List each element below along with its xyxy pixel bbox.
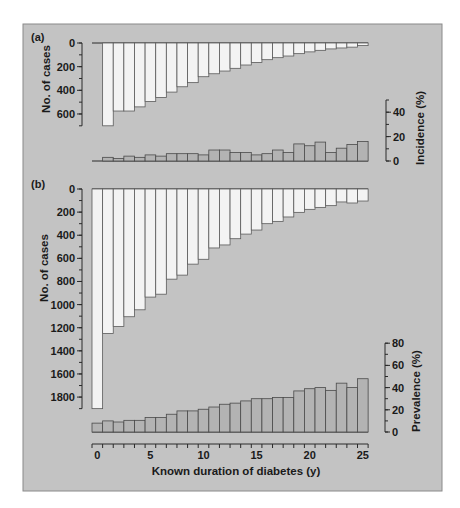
rate-bar — [219, 150, 230, 161]
y-tick-label: 1600 — [51, 368, 75, 380]
rate-bar — [283, 152, 294, 161]
y-tick-label: 200 — [57, 61, 75, 73]
cases-bar — [177, 43, 188, 87]
y-tick-label: 0 — [393, 155, 399, 167]
rate-bar — [283, 398, 294, 432]
cases-bar — [156, 189, 167, 294]
rate-bar — [251, 155, 262, 161]
x-tick-label: 0 — [94, 449, 100, 461]
cases-bar — [262, 189, 273, 224]
cases-bar — [145, 189, 156, 297]
rate-bar — [134, 420, 145, 432]
y-tick-label: 800 — [57, 275, 75, 287]
cases-bar — [166, 43, 177, 92]
panel-a-label: (a) — [31, 31, 45, 43]
cases-bar — [251, 189, 262, 230]
cases-bar — [294, 189, 305, 212]
cases-bar — [283, 189, 294, 217]
rate-bar — [156, 156, 167, 161]
cases-bar — [113, 189, 124, 327]
rate-bar — [336, 383, 347, 432]
rate-bar — [294, 144, 305, 161]
rate-bar — [262, 154, 273, 161]
rate-bar — [113, 422, 124, 432]
cases-bar — [166, 189, 177, 279]
rate-bar — [103, 157, 114, 161]
cases-bar — [241, 43, 252, 65]
rate-bar — [326, 152, 337, 161]
rate-bar — [177, 154, 188, 161]
cases-bar — [347, 43, 358, 47]
rate-bar — [124, 420, 135, 432]
rate-bar — [358, 141, 369, 161]
y-tick-label: 1200 — [51, 322, 75, 334]
rate-bar — [145, 155, 156, 161]
panel-a-cases-axis-title: No. of cases — [40, 45, 52, 113]
y-tick-label: 1800 — [51, 391, 75, 403]
cases-bar — [177, 189, 188, 275]
cases-bar — [358, 189, 369, 201]
cases-bar — [336, 189, 347, 202]
rate-bar — [166, 154, 177, 161]
cases-bar — [273, 189, 284, 221]
rate-bar — [230, 403, 241, 432]
y-tick-label: 600 — [57, 108, 75, 120]
x-tick-label: 15 — [250, 449, 262, 461]
rate-bar — [336, 148, 347, 161]
cases-bar — [283, 43, 294, 56]
cases-bar — [336, 43, 347, 48]
cases-bar — [209, 189, 220, 248]
rate-bar — [326, 390, 337, 432]
cases-bar — [241, 189, 252, 234]
cases-bar — [134, 189, 145, 310]
cases-bar — [145, 43, 156, 102]
y-tick-label: 600 — [57, 252, 75, 264]
x-tick-label: 20 — [304, 449, 316, 461]
cases-bar — [358, 43, 369, 46]
cases-bar — [315, 43, 326, 50]
rate-bar — [358, 379, 369, 432]
x-tick-label: 25 — [357, 449, 369, 461]
cases-bar — [273, 43, 284, 58]
rate-bar — [209, 150, 220, 161]
cases-bar — [124, 189, 135, 317]
cases-bar — [294, 43, 305, 54]
rate-bar — [315, 142, 326, 161]
cases-bar — [103, 43, 114, 126]
rate-bar — [262, 399, 273, 432]
rate-bar — [219, 404, 230, 432]
cases-bar — [262, 43, 273, 60]
y-tick-label: 0 — [69, 37, 75, 49]
y-tick-label: 80 — [392, 337, 404, 349]
rate-bar — [230, 152, 241, 161]
cases-bar — [188, 43, 199, 83]
y-tick-label: 1000 — [51, 299, 75, 311]
rate-bar — [198, 155, 209, 161]
cases-bar — [219, 189, 230, 245]
y-tick-label: 0 — [392, 426, 398, 438]
rate-bar — [304, 389, 315, 432]
cases-bar — [209, 43, 220, 74]
rate-bar — [134, 157, 145, 161]
rate-bar — [188, 411, 199, 432]
y-tick-label: 200 — [57, 206, 75, 218]
cases-bar — [156, 43, 167, 97]
rate-bar — [166, 414, 177, 432]
rate-bar — [113, 159, 124, 161]
rate-bar — [347, 145, 358, 161]
cases-bar — [188, 189, 199, 264]
prevalence-axis-title: Prevalence (%) — [410, 350, 422, 432]
cases-bar — [304, 189, 315, 209]
y-tick-label: 0 — [69, 183, 75, 195]
rate-bar — [177, 411, 188, 432]
y-tick-label: 60 — [392, 359, 404, 371]
cases-bar — [230, 43, 241, 68]
rate-bar — [103, 421, 114, 432]
cases-bar — [92, 189, 103, 409]
cases-bar — [113, 43, 124, 111]
rate-bar — [156, 418, 167, 432]
cases-bar — [124, 43, 135, 111]
cases-bar — [251, 43, 262, 62]
y-tick-label: 20 — [392, 404, 404, 416]
cases-bar — [103, 189, 114, 334]
